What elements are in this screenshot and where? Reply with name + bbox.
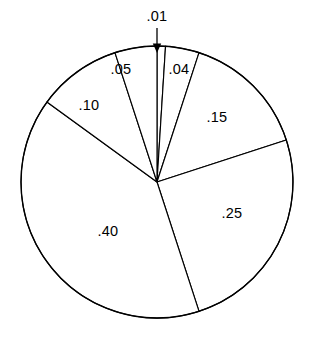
pie-slice-label-10: .10	[79, 97, 100, 113]
pie-slice-label-05: .05	[111, 61, 132, 77]
pie-chart-figure: .01.04.15.25.40.10.05	[0, 0, 313, 347]
pie-slice-label-25: .25	[222, 205, 243, 221]
pie-slice-label-15: .15	[207, 109, 228, 125]
pie-wedge-group	[21, 46, 293, 318]
pie-slice-label-40: .40	[98, 223, 119, 239]
pie-slice-label-04: .04	[169, 61, 190, 77]
pie-chart-canvas: .01.04.15.25.40.10.05	[0, 0, 313, 347]
pie-slice-label-01: .01	[147, 8, 168, 24]
